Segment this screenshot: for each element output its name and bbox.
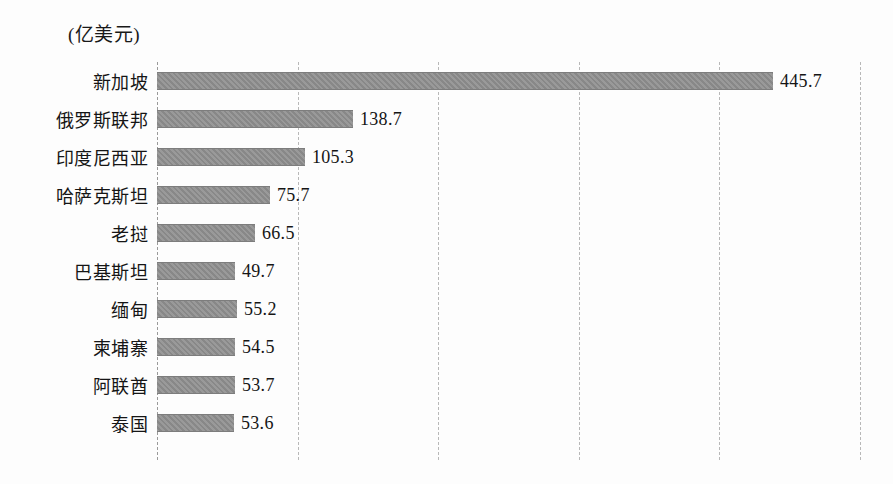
- bar-row: 哈萨克斯坦75.7: [157, 176, 859, 214]
- bar-row: 柬埔寨54.5: [157, 328, 859, 366]
- bar-row: 巴基斯坦49.7: [157, 252, 859, 290]
- value-label: 54.5: [242, 337, 275, 358]
- value-label: 49.7: [242, 261, 275, 282]
- category-label: 俄罗斯联邦: [56, 106, 149, 132]
- category-label: 泰国: [111, 410, 148, 436]
- bar-row: 俄罗斯联邦138.7: [157, 100, 859, 138]
- category-label: 老挝: [111, 220, 148, 246]
- value-label: 445.7: [780, 71, 822, 92]
- bar: [157, 376, 235, 394]
- value-label: 55.2: [244, 299, 277, 320]
- value-label: 105.3: [312, 147, 354, 168]
- bar: [157, 414, 234, 432]
- bar-row: 老挝66.5: [157, 214, 859, 252]
- bar-row: 阿联酋53.7: [157, 366, 859, 404]
- bar: [157, 300, 237, 318]
- category-label: 阿联酋: [93, 372, 149, 398]
- category-label: 新加坡: [93, 68, 149, 94]
- value-label: 66.5: [262, 223, 295, 244]
- bar-chart: (亿美元) 新加坡445.7俄罗斯联邦138.7印度尼西亚105.3哈萨克斯坦7…: [0, 0, 893, 484]
- bar: [157, 148, 305, 166]
- bar-row: 新加坡445.7: [157, 62, 859, 100]
- bar-row: 泰国53.6: [157, 404, 859, 442]
- category-label: 哈萨克斯坦: [56, 182, 149, 208]
- bar-row: 印度尼西亚105.3: [157, 138, 859, 176]
- bar: [157, 110, 353, 128]
- unit-label: (亿美元): [68, 19, 140, 46]
- category-label: 缅甸: [111, 296, 148, 322]
- value-label: 53.6: [241, 413, 274, 434]
- gridline-500: [860, 62, 861, 460]
- bar: [157, 262, 235, 280]
- value-label: 138.7: [360, 109, 402, 130]
- bar: [157, 186, 270, 204]
- category-label: 柬埔寨: [93, 334, 149, 360]
- bar: [157, 72, 773, 90]
- bar-row: 缅甸55.2: [157, 290, 859, 328]
- value-label: 75.7: [277, 185, 310, 206]
- value-label: 53.7: [242, 375, 275, 396]
- plot-area: 新加坡445.7俄罗斯联邦138.7印度尼西亚105.3哈萨克斯坦75.7老挝6…: [157, 62, 859, 460]
- bar: [157, 224, 255, 242]
- category-label: 巴基斯坦: [74, 258, 148, 284]
- bar: [157, 338, 235, 356]
- category-label: 印度尼西亚: [56, 144, 149, 170]
